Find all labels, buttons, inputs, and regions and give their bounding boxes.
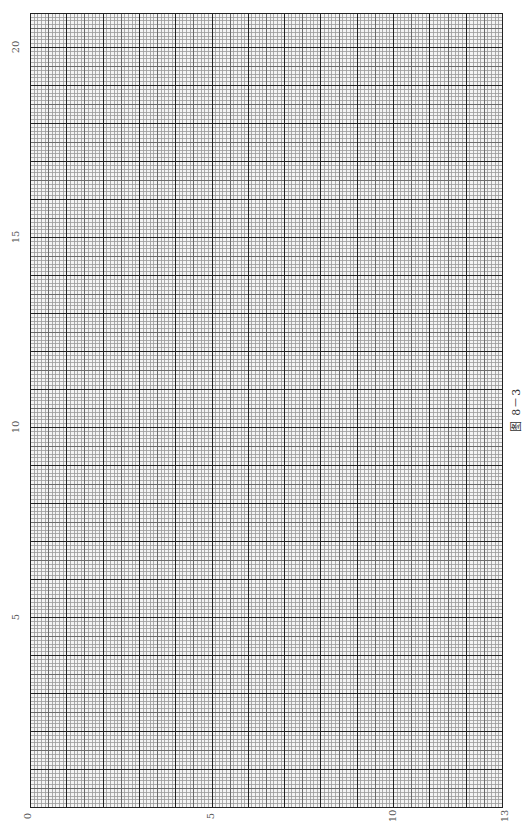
- graph-paper-grid: [0, 0, 529, 823]
- y-tick-label-20: 20: [11, 41, 21, 54]
- figure-caption: 图 8－3: [511, 388, 522, 433]
- y-tick-label-5: 5: [11, 614, 21, 620]
- x-tick-label-10: 10: [388, 810, 398, 823]
- y-tick-label-10: 10: [11, 421, 21, 434]
- x-tick-label-13: 13: [500, 810, 510, 823]
- y-tick-label-15: 15: [11, 231, 21, 244]
- x-tick-label-5: 5: [206, 813, 216, 819]
- x-tick-label-0: 0: [23, 813, 33, 819]
